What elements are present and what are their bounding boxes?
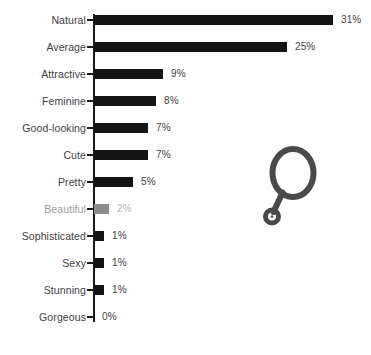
hand-mirror-icon [263,146,319,230]
value-label: 8% [164,94,179,108]
axis-tick [87,181,94,183]
value-label: 31% [341,13,361,27]
bar-row: Average25% [0,37,371,61]
bar [94,150,148,160]
category-label: Stunning [44,283,86,297]
value-label: 2% [117,202,132,216]
value-label: 0% [102,310,117,324]
value-label: 1% [112,256,127,270]
value-label: 9% [171,67,186,81]
category-label: Beautiful [44,202,86,216]
value-label: 1% [112,283,127,297]
bar-row: Natural31% [0,10,371,34]
bar [94,231,104,241]
bar [94,69,163,79]
bar [94,96,156,106]
axis-tick [87,127,94,129]
category-label: Feminine [42,94,86,108]
category-label: Good-looking [22,121,86,135]
category-label: Pretty [58,175,86,189]
bar-row: Stunning1% [0,280,371,304]
value-label: 1% [112,229,127,243]
bar [94,123,148,133]
bar [94,42,287,52]
axis-tick [87,73,94,75]
axis-tick [87,100,94,102]
bar-chart: Natural31%Average25%Attractive9%Feminine… [0,0,371,355]
bar-row: Attractive9% [0,64,371,88]
category-label: Gorgeous [39,310,86,324]
bar [94,177,133,187]
bar [94,15,333,25]
value-label: 5% [141,175,156,189]
axis-tick [87,154,94,156]
category-label: Average [46,40,86,54]
axis-tick [87,316,94,318]
bar-row: Gorgeous0% [0,307,371,331]
axis-tick [87,46,94,48]
category-label: Attractive [41,67,86,81]
value-label: 7% [156,121,171,135]
axis-tick [87,262,94,264]
axis-tick [87,208,94,210]
bar [94,258,104,268]
axis-tick [87,19,94,21]
axis-tick [87,289,94,291]
category-label: Cute [63,148,86,162]
value-label: 7% [156,148,171,162]
category-label: Sophisticated [22,229,86,243]
bar [94,204,109,214]
category-label: Sexy [62,256,86,270]
bar [94,285,104,295]
bar-row: Good-looking7% [0,118,371,142]
value-label: 25% [295,40,315,54]
bar-row: Feminine8% [0,91,371,115]
axis-tick [87,235,94,237]
category-label: Natural [51,13,86,27]
bar-row: Sexy1% [0,253,371,277]
